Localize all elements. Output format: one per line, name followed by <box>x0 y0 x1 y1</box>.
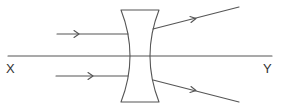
ray-diagram <box>0 0 282 112</box>
axis-label-y: Y <box>263 62 272 75</box>
axis-label-x: X <box>6 62 15 75</box>
